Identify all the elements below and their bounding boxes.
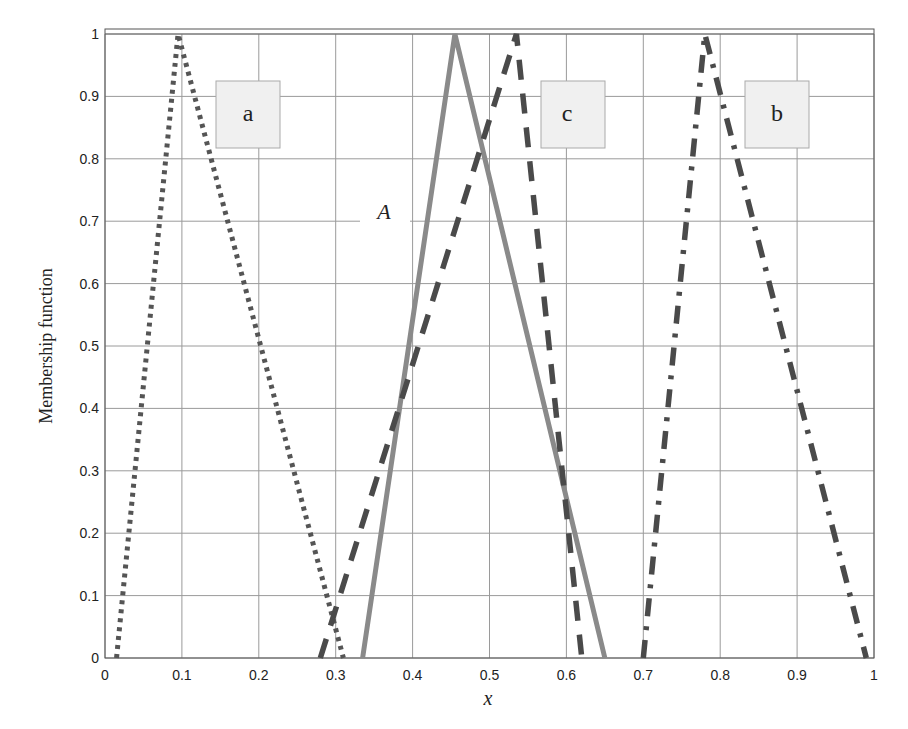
- y-tick-label: 0: [91, 650, 99, 666]
- y-axis-label: Membership function: [36, 268, 56, 423]
- y-tick-label: 0.2: [80, 525, 100, 541]
- y-tick-label: 0.6: [80, 276, 100, 292]
- annotation-box-c: c: [541, 81, 605, 148]
- x-tick-label: 0.9: [787, 667, 807, 683]
- annotation-c-label: c: [562, 100, 573, 126]
- y-tick-label: 0.9: [80, 88, 100, 104]
- x-tick-label: 0.2: [249, 667, 269, 683]
- annotation-box-a: a: [216, 81, 280, 148]
- y-tick-label: 0.8: [80, 151, 100, 167]
- x-tick-label: 0.3: [326, 667, 346, 683]
- y-tick-label: 0.4: [80, 400, 100, 416]
- annotation-box-b: b: [745, 81, 809, 148]
- annotation-a-label: a: [243, 100, 254, 126]
- x-tick-label: 0.8: [710, 667, 730, 683]
- x-tick-label: 0.4: [403, 667, 423, 683]
- y-tick-label: 0.3: [80, 463, 100, 479]
- x-tick-label: 0.6: [557, 667, 577, 683]
- y-tick-label: 1: [91, 26, 99, 42]
- annotation-b-label: b: [771, 100, 783, 126]
- membership-chart: 00.10.20.30.40.50.60.70.80.9100.10.20.30…: [0, 0, 908, 729]
- x-tick-label: 0: [101, 667, 109, 683]
- x-tick-label: 0.1: [172, 667, 192, 683]
- curve-A-label: A: [375, 199, 391, 224]
- x-tick-label: 0.5: [480, 667, 500, 683]
- y-tick-label: 0.1: [80, 588, 100, 604]
- x-tick-label: 1: [870, 667, 878, 683]
- x-axis-label: x: [483, 687, 493, 709]
- y-tick-label: 0.7: [80, 213, 100, 229]
- x-tick-label: 0.7: [634, 667, 654, 683]
- y-tick-label: 0.5: [80, 338, 100, 354]
